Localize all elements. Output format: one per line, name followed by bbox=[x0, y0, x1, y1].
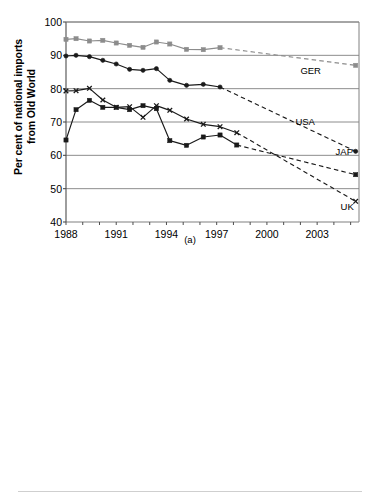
series-uk bbox=[64, 86, 358, 204]
chart-svg: GERJAPUKUSA bbox=[0, 19, 380, 225]
chart-panel-b: Per cent of national imports from New Wo… bbox=[0, 250, 380, 495]
series-label-uk: UK bbox=[341, 201, 355, 212]
plot-area-a: GERJAPUKUSA bbox=[0, 19, 380, 234]
series-label-ger: GER bbox=[300, 65, 321, 76]
series-label-jap: JAP bbox=[336, 146, 353, 157]
series-ger bbox=[64, 37, 358, 68]
chart-panel-a: Per cent of national imports from Old Wo… bbox=[0, 0, 380, 250]
figure-page: Per cent of national imports from Old Wo… bbox=[0, 0, 380, 495]
caption-divider bbox=[18, 491, 362, 492]
series-label-usa: USA bbox=[295, 116, 315, 127]
panel-label-a: (a) bbox=[0, 234, 380, 245]
series-usa bbox=[64, 98, 358, 177]
